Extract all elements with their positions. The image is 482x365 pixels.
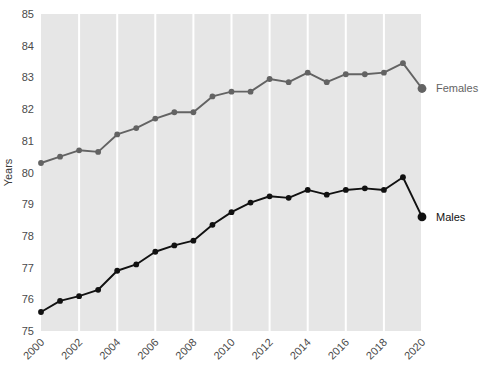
data-point-females: [381, 70, 387, 76]
data-point-males: [210, 222, 216, 228]
data-point-males: [362, 185, 368, 191]
data-point-males: [381, 187, 387, 193]
data-point-females: [267, 76, 273, 82]
data-point-females: [229, 89, 235, 95]
data-point-males: [400, 174, 406, 180]
x-tick-label: 2002: [59, 336, 85, 362]
data-point-females: [400, 60, 406, 66]
data-point-females: [362, 71, 368, 77]
data-point-males: [343, 187, 349, 193]
data-point-males: [57, 298, 63, 304]
data-point-males: [76, 293, 82, 299]
data-point-males: [191, 238, 197, 244]
x-tick-label: 2020: [402, 336, 428, 362]
data-point-females: [38, 160, 44, 166]
data-point-males: [324, 192, 330, 198]
data-point-females: [152, 116, 158, 122]
x-tick-label: 2010: [211, 336, 237, 362]
data-point-males: [133, 262, 139, 268]
x-tick-label: 2000: [21, 336, 47, 362]
data-point-females: [324, 79, 330, 85]
y-axis-title: Years: [2, 158, 14, 186]
x-tick-label: 2008: [173, 336, 199, 362]
data-point-females: [171, 109, 177, 115]
y-tick-label: 84: [22, 40, 34, 52]
data-point-males: [305, 187, 311, 193]
y-tick-label: 79: [22, 198, 34, 210]
y-tick-label: 78: [22, 230, 34, 242]
chart-canvas: 7576777879808182838485Years2000200220042…: [0, 0, 482, 365]
data-point-males: [248, 200, 254, 206]
data-point-males: [152, 249, 158, 255]
data-point-females: [248, 89, 254, 95]
data-point-females: [95, 149, 101, 155]
data-point-females: [76, 147, 82, 153]
y-tick-label: 85: [22, 8, 34, 20]
data-point-males: [229, 209, 235, 215]
y-tick-label: 82: [22, 103, 34, 115]
series-label-males: Males: [436, 211, 466, 223]
data-point-males: [286, 195, 292, 201]
x-tick-label: 2004: [97, 336, 123, 362]
data-point-females: [305, 70, 311, 76]
life-expectancy-line-chart: 7576777879808182838485Years2000200220042…: [0, 0, 482, 365]
data-point-females: [343, 71, 349, 77]
data-point-males: [171, 243, 177, 249]
x-tick-label: 2012: [249, 336, 275, 362]
data-point-males: [418, 212, 427, 221]
data-point-females: [57, 154, 63, 160]
data-point-males: [114, 268, 120, 274]
x-tick-label: 2006: [135, 336, 161, 362]
data-point-females: [210, 94, 216, 100]
data-point-males: [95, 287, 101, 293]
y-tick-label: 75: [22, 325, 34, 337]
y-tick-label: 76: [22, 293, 34, 305]
data-point-males: [267, 193, 273, 199]
y-tick-label: 77: [22, 262, 34, 274]
y-tick-label: 83: [22, 71, 34, 83]
series-label-females: Females: [436, 82, 479, 94]
data-point-females: [133, 125, 139, 131]
x-tick-label: 2014: [287, 336, 313, 362]
x-tick-label: 2018: [364, 336, 390, 362]
data-point-females: [418, 84, 427, 93]
y-tick-label: 80: [22, 167, 34, 179]
x-tick-label: 2016: [325, 336, 351, 362]
y-tick-label: 81: [22, 135, 34, 147]
data-point-males: [38, 309, 44, 315]
data-point-females: [191, 109, 197, 115]
data-point-females: [286, 79, 292, 85]
data-point-females: [114, 132, 120, 138]
